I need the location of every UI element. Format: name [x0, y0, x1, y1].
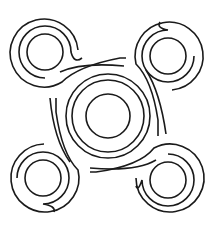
- symbol-figure: Line-art symbol: central concentric circ…: [0, 0, 215, 231]
- corner-spiral-bottom-left: [11, 98, 79, 212]
- center-rings: [66, 74, 150, 158]
- corner-spiral-top-right: [135, 22, 203, 136]
- corner-spiral-top-left: [10, 19, 126, 87]
- spiral-symbol-graphic: [0, 0, 215, 231]
- corner-spiral-bottom-right: [90, 144, 204, 212]
